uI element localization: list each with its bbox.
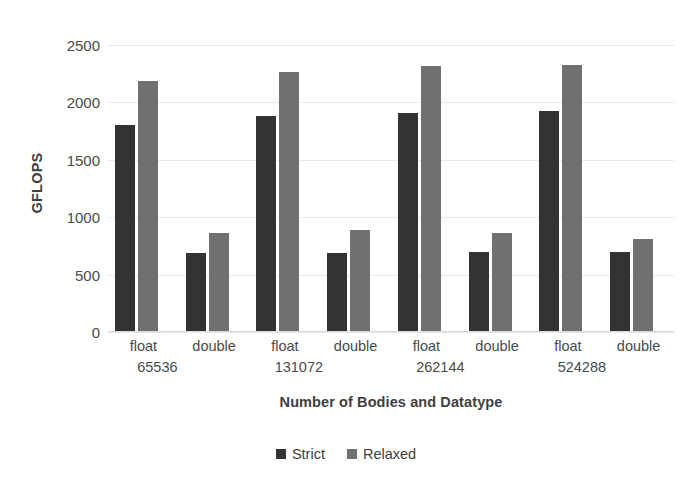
x-axis-title: Number of Bodies and Datatype bbox=[108, 394, 674, 410]
bar-strict-3 bbox=[327, 253, 347, 332]
legend-label: Relaxed bbox=[363, 446, 416, 462]
x-axis-baseline bbox=[108, 331, 674, 332]
bar-strict-5 bbox=[469, 252, 489, 332]
bar-relaxed-0 bbox=[138, 81, 158, 332]
bar-relaxed-2 bbox=[279, 72, 299, 332]
category-body-count: 524288 bbox=[551, 357, 614, 378]
bar-strict-7 bbox=[610, 252, 630, 332]
y-axis-title: GFLOPS bbox=[29, 133, 45, 233]
category-datatype: double bbox=[593, 336, 684, 357]
legend-label: Strict bbox=[292, 446, 325, 462]
bar-relaxed-6 bbox=[562, 65, 582, 332]
plot-area bbox=[108, 45, 674, 332]
legend-swatch-icon bbox=[276, 449, 286, 459]
bar-strict-0 bbox=[115, 125, 135, 332]
y-axis-tick-label: 1500 bbox=[52, 151, 100, 168]
y-axis-tick-label: 1000 bbox=[52, 209, 100, 226]
bar-strict-2 bbox=[256, 116, 276, 332]
gridline bbox=[108, 332, 674, 333]
y-axis-tick-label: 0 bbox=[52, 324, 100, 341]
bar-strict-6 bbox=[539, 111, 559, 332]
chart-legend: StrictRelaxed bbox=[0, 446, 692, 462]
legend-swatch-icon bbox=[347, 449, 357, 459]
x-axis-category-label: double bbox=[593, 336, 684, 357]
y-axis-tick-labels: 05001000150020002500 bbox=[52, 0, 100, 494]
bar-relaxed-1 bbox=[209, 233, 229, 332]
category-body-count: 262144 bbox=[409, 357, 472, 378]
category-body-count: 65536 bbox=[126, 357, 189, 378]
legend-item-strict[interactable]: Strict bbox=[276, 446, 325, 462]
bar-relaxed-3 bbox=[350, 230, 370, 332]
y-axis-tick-label: 2500 bbox=[52, 37, 100, 54]
legend-item-relaxed[interactable]: Relaxed bbox=[347, 446, 416, 462]
category-body-count: 131072 bbox=[268, 357, 331, 378]
y-axis-tick-label: 500 bbox=[52, 266, 100, 283]
bar-relaxed-5 bbox=[492, 233, 512, 332]
bar-relaxed-4 bbox=[421, 66, 441, 332]
bars-layer bbox=[108, 45, 674, 332]
bar-chart: GFLOPS 05001000150020002500 float65536do… bbox=[0, 0, 692, 494]
y-axis-tick-label: 2000 bbox=[52, 94, 100, 111]
bar-relaxed-7 bbox=[633, 239, 653, 332]
x-axis-category-labels: float65536doublefloat131072doublefloat26… bbox=[108, 336, 674, 394]
bar-strict-4 bbox=[398, 113, 418, 332]
bar-strict-1 bbox=[186, 253, 206, 332]
